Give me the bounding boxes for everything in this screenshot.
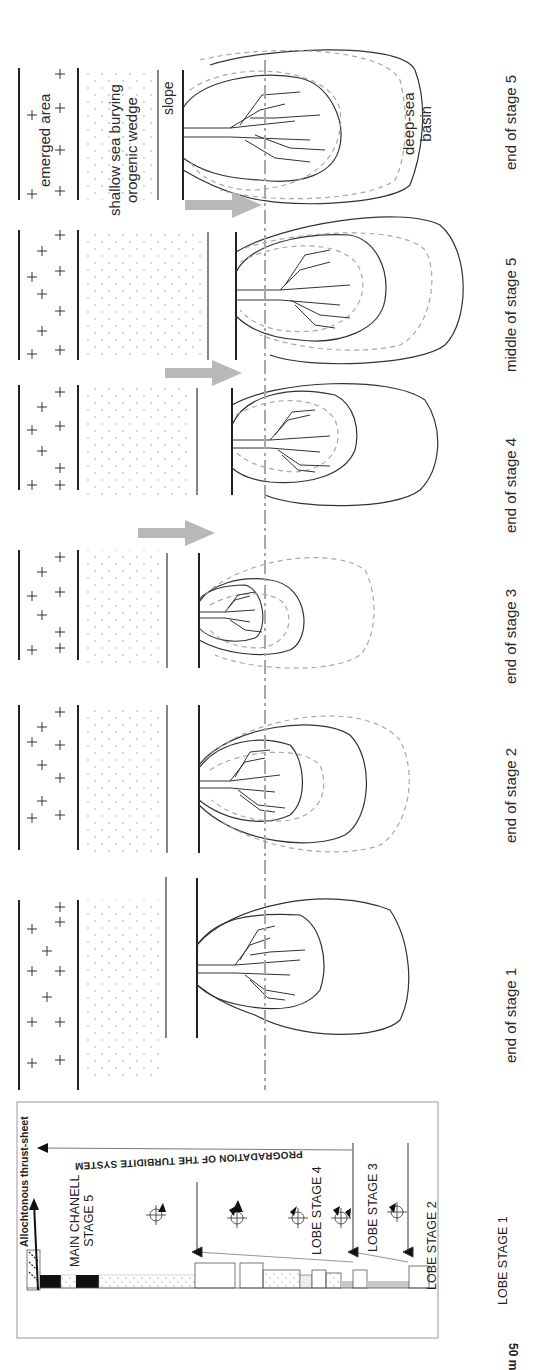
stage-3-panel: [19, 550, 374, 668]
lobe-stage-1-label: LOBE STAGE 1: [496, 1216, 510, 1305]
emerged-area-label: emerged area: [36, 94, 53, 187]
shallow-sea-label: shallow sea burying orogenic wedge: [106, 84, 140, 216]
stage-label-4: end of stage 4: [502, 438, 519, 533]
slope-label: slope: [160, 82, 177, 115]
deep-sea-basin-label: deep-sea basin: [400, 92, 434, 155]
deep-sea-label-line1: deep-sea: [400, 92, 417, 155]
stage-4-panel: [19, 384, 438, 506]
stage-2-panel: [19, 705, 409, 855]
shallow-sea-label-line1: shallow sea burying: [106, 84, 123, 216]
thrust-sheet-label: Allochtonous thrust-sheet: [18, 1116, 30, 1247]
gray-arrow-2: [165, 360, 242, 386]
main-channel-label: MAIN CHANELL STAGE 5: [68, 1175, 96, 1267]
gray-arrow-1: [185, 192, 262, 218]
stage-label-5-end: end of stage 5: [502, 75, 519, 170]
gray-arrow-3: [138, 520, 215, 546]
shallow-sea-label-line2: orogenic wedge: [123, 84, 140, 216]
lobe-stage-4-label: LOBE STAGE 4: [310, 1166, 324, 1255]
scale-bar-label: 50 m: [506, 1343, 520, 1370]
stage-label-1: end of stage 1: [502, 968, 519, 1063]
main-channel-line1: MAIN CHANELL: [68, 1175, 82, 1267]
stage-5-mid-panel: [19, 217, 463, 364]
stage-label-3: end of stage 3: [502, 589, 519, 684]
lobe-stage-3-label: LOBE STAGE 3: [366, 1163, 380, 1252]
stage-label-2: end of stage 2: [502, 748, 519, 843]
stage-1-panel: [19, 877, 409, 1090]
main-channel-line2: STAGE 5: [82, 1175, 96, 1267]
lobe-stage-2-label: LOBE STAGE 2: [425, 1201, 439, 1290]
channel-branches: [183, 92, 325, 162]
stage-label-5-mid: middle of stage 5: [502, 258, 519, 372]
deep-sea-label-line2: basin: [417, 92, 434, 155]
